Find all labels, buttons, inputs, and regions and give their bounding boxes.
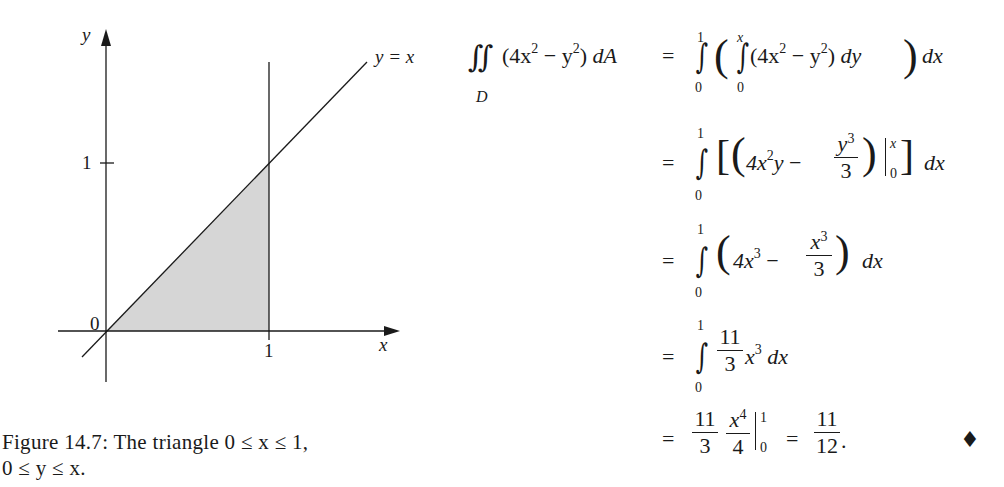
x-axis-label: x: [379, 334, 387, 356]
dx-1: dx: [922, 45, 943, 67]
eval-upper-1: 1: [760, 410, 767, 426]
integral-symbol: ∫: [696, 142, 708, 182]
region-D-label: D: [476, 88, 488, 106]
big-paren-open: (: [714, 34, 729, 78]
equals-sign-2: =: [662, 152, 674, 174]
eval-lower-0: 0: [760, 440, 767, 456]
eval-upper-x: x: [890, 136, 896, 152]
end-of-example-diamond-icon: ♦: [960, 427, 980, 452]
caption-line-1: Figure 14.7: The triangle 0 ≤ x ≤ 1,: [2, 429, 308, 455]
fraction-11-over-3: 11 3: [692, 408, 718, 457]
equals-sign-5: =: [662, 428, 674, 450]
lower-limit: 0: [695, 380, 702, 396]
inner-integrand: (4x2 − y2) dy: [750, 45, 861, 67]
integral-symbol: ∫: [696, 240, 708, 280]
bracket-open: [: [716, 134, 730, 176]
y-tick-label: 1: [82, 152, 92, 174]
fraction-x3-over-3: x3 3: [806, 230, 832, 280]
fraction-y3-over-3: y3 3: [834, 132, 858, 182]
upper-limit: 1: [697, 30, 704, 46]
double-integral-symbol: ∬: [468, 42, 494, 72]
origin-label: 0: [90, 313, 100, 335]
integral-symbol: ∫: [696, 336, 708, 376]
eval-lower-0: 0: [890, 166, 897, 182]
upper-limit: 1: [697, 318, 704, 334]
inner-upper-limit: x: [737, 30, 743, 46]
line-label-y-equals-x: y = x: [375, 46, 414, 68]
dx-3: dx: [862, 250, 883, 272]
upper-limit: 1: [697, 222, 704, 238]
dx-2: dx: [924, 152, 945, 174]
evaluation-bar: [885, 138, 886, 176]
bracket-close: ]: [900, 134, 914, 176]
equals-sign-3: =: [662, 250, 674, 272]
y-axis-arrow-icon: [101, 29, 111, 46]
period: .: [841, 430, 847, 452]
lower-limit: 0: [695, 188, 702, 204]
term-4x2y: 4x2y −: [746, 152, 801, 174]
paren-close: ): [835, 230, 850, 274]
lower-limit: 0: [695, 80, 702, 96]
x-tick-label: 1: [264, 340, 274, 362]
term-4x3: 4x3 −: [733, 250, 779, 272]
caption-line-2: 0 ≤ y ≤ x.: [2, 455, 308, 481]
big-paren-close: ): [903, 34, 918, 78]
fraction-x4-over-4: x4 4: [726, 408, 750, 458]
fraction-11-over-3: 11 3: [717, 326, 743, 375]
lhs-integrand: (4x2 − y2) dA: [502, 45, 617, 67]
result-fraction-11-over-12: 11 12: [814, 408, 840, 457]
term-x3-dx: x3 dx: [745, 346, 788, 368]
y-axis-label: y: [82, 24, 90, 46]
paren-open: (: [731, 132, 746, 176]
equals-sign-4: =: [662, 346, 674, 368]
equals-sign-1: =: [662, 45, 674, 67]
figure-caption: Figure 14.7: The triangle 0 ≤ x ≤ 1, 0 ≤…: [2, 429, 308, 481]
paren-close: ): [862, 132, 877, 176]
upper-limit: 1: [697, 126, 704, 142]
paren-open: (: [716, 230, 731, 274]
lower-limit: 0: [695, 285, 702, 301]
evaluation-bar: [755, 412, 756, 450]
inner-lower-limit: 0: [737, 80, 744, 96]
equals-sign-6: =: [786, 428, 798, 450]
